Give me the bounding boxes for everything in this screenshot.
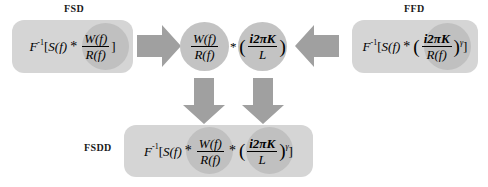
- diagram-canvas: FSD F-1[S(f)* W(f) R(f) ] W(f) R(f): [0, 0, 488, 187]
- ffd-box: F-1[S(f)* ( i2πK R(f) )γ]: [352, 20, 478, 73]
- ffd-fraction: i2πK R(f): [422, 32, 452, 61]
- fsd-numerator: W(f): [82, 32, 109, 46]
- ffd-exponent: γ: [460, 39, 463, 47]
- ffd-conv-operator: *: [403, 40, 410, 54]
- separator-glyph: *: [230, 40, 237, 53]
- arrow-wr-down: [183, 78, 225, 124]
- fsd-conv-operator: *: [70, 40, 77, 54]
- circle-ikl-formula: ( i2πK L ): [239, 32, 286, 61]
- circle-ikl-fraction: i2πK L: [248, 32, 278, 61]
- ffd-label: FFD: [404, 3, 425, 14]
- fsdd-box: F-1[S(f)* W(f) R(f) * ( i2πK L )γ]: [124, 125, 313, 177]
- circle-ikl-numerator: i2πK: [248, 32, 278, 46]
- fsdd-s-of-f: S(f): [163, 145, 182, 158]
- circle-wr-formula: W(f) R(f): [189, 32, 220, 61]
- ffd-prefix: F: [363, 40, 371, 53]
- fsd-formula: F-1[S(f)* W(f) R(f) ]: [29, 32, 115, 61]
- fsdd-denominator-1: R(f): [198, 152, 222, 166]
- fsdd-fraction-2: i2πK L: [247, 137, 277, 166]
- circle-wr-denominator: R(f): [192, 47, 216, 61]
- fsd-prefix: F: [29, 40, 37, 53]
- ffd-prefix-exponent: -1: [371, 39, 378, 47]
- circle-wr-fraction: W(f) R(f): [191, 32, 218, 61]
- ffd-numerator: i2πK: [422, 32, 452, 46]
- ffd-s-of-f: S(f): [382, 40, 401, 53]
- fsdd-prefix-exponent: -1: [152, 143, 159, 151]
- fsd-denominator: R(f): [84, 47, 108, 61]
- arrow-ffd-to-center: [295, 25, 339, 67]
- fsd-box: F-1[S(f)* W(f) R(f) ]: [12, 20, 133, 73]
- circle-wr-numerator: W(f): [191, 32, 218, 46]
- fsd-fraction: W(f) R(f): [82, 32, 109, 61]
- circle-separator-asterisk: *: [230, 40, 237, 53]
- fsd-label: FSD: [64, 3, 84, 14]
- fsd-s-of-f: S(f): [48, 40, 67, 53]
- fsdd-prefix: F: [144, 145, 152, 158]
- fsdd-numerator-2: i2πK: [247, 137, 277, 151]
- fsd-bracket-close: ]: [111, 40, 115, 53]
- fsdd-bracket-close: ]: [289, 145, 293, 158]
- circle-w-over-r: W(f) R(f): [180, 22, 229, 71]
- circle-i2pik-over-l: ( i2πK L ): [238, 22, 287, 71]
- fsd-prefix-exponent: -1: [37, 39, 44, 47]
- fsdd-denominator-2: L: [257, 152, 268, 166]
- fsdd-conv-operator-2: *: [229, 144, 236, 158]
- arrow-fsd-to-center: [137, 25, 181, 67]
- ffd-formula: F-1[S(f)* ( i2πK R(f) )γ]: [363, 32, 468, 61]
- fsdd-exponent: γ: [285, 143, 288, 151]
- fsdd-fraction-1: W(f) R(f): [197, 137, 224, 166]
- fsdd-numerator-1: W(f): [197, 137, 224, 151]
- ffd-denominator: R(f): [425, 47, 449, 61]
- ffd-bracket-close: ]: [463, 40, 467, 53]
- circle-ikl-denominator: L: [257, 47, 268, 61]
- fsdd-label: FSDD: [84, 142, 112, 153]
- arrow-ikl-down: [242, 78, 284, 124]
- fsdd-formula: F-1[S(f)* W(f) R(f) * ( i2πK L )γ]: [144, 137, 293, 166]
- fsdd-conv-operator-1: *: [185, 144, 192, 158]
